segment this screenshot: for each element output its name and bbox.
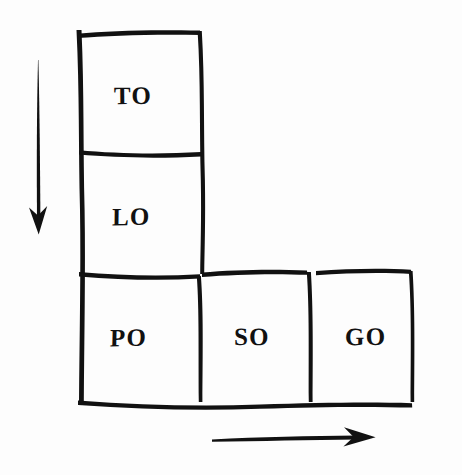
border-left — [77, 30, 85, 404]
grid-drawing — [0, 0, 462, 475]
border-top-go — [316, 269, 412, 276]
divider-to-lo — [79, 150, 201, 157]
down-arrow — [29, 60, 47, 235]
cell-label-so: SO — [234, 324, 270, 349]
border-bottom — [78, 401, 412, 410]
divider-lo-po — [79, 272, 200, 280]
right-arrow-shaft — [212, 436, 356, 442]
right-arrow — [212, 427, 376, 446]
border-top-so — [202, 270, 307, 277]
border-top-to — [77, 30, 201, 38]
cell-label-to: TO — [114, 83, 152, 108]
border-right-go — [409, 271, 415, 402]
cell-label-lo: LO — [112, 204, 151, 230]
down-arrow-shaft — [37, 60, 41, 218]
cell-label-po: PO — [110, 324, 148, 350]
divider-po-so — [197, 276, 203, 402]
cell-label-go: GO — [345, 324, 387, 349]
divider-so-go — [307, 272, 313, 402]
diagram-canvas: TO LO PO SO GO — [0, 0, 462, 475]
